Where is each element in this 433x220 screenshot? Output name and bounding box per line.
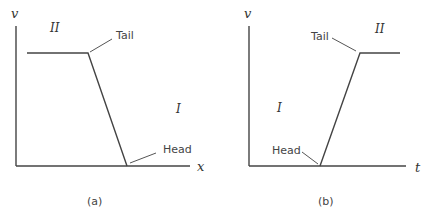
tail-label-b: Tail xyxy=(310,30,329,43)
panel-a: v x II I Tail Head (a) xyxy=(11,6,205,208)
head-label-a: Head xyxy=(163,143,192,156)
x-axis-label-a: x xyxy=(197,159,205,174)
head-label-b: Head xyxy=(272,144,301,157)
caption-b: (b) xyxy=(318,195,334,208)
wave-profile-a xyxy=(27,53,127,166)
t-axis-label-b: t xyxy=(415,160,421,175)
diagram-canvas: v x II I Tail Head (a) v t II I Tail Hea… xyxy=(0,0,433,220)
v-axis-label-b: v xyxy=(244,6,252,21)
head-leader-a xyxy=(130,153,156,163)
region-upper-a: II xyxy=(49,21,60,35)
region-lower-b: I xyxy=(276,101,282,115)
region-lower-a: I xyxy=(175,102,181,116)
caption-a: (a) xyxy=(87,195,102,208)
tail-leader-b xyxy=(332,38,356,51)
head-leader-b xyxy=(302,152,318,164)
tail-label-a: Tail xyxy=(115,29,134,42)
tail-leader-a xyxy=(90,39,112,52)
wave-profile-b xyxy=(320,53,400,166)
panel-b: v t II I Tail Head (b) xyxy=(244,6,421,208)
region-upper-b: II xyxy=(374,22,385,36)
v-axis-label-a: v xyxy=(11,6,19,21)
